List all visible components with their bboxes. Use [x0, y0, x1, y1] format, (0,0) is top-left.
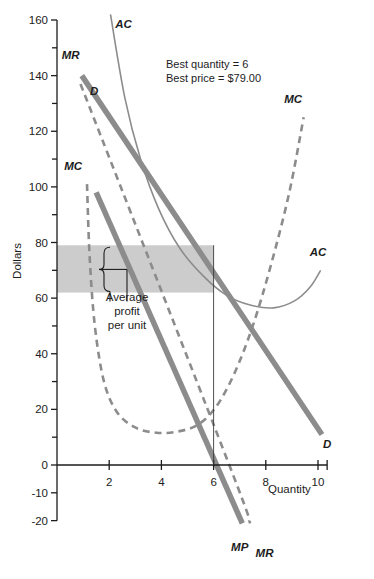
x-tick-label: 10: [312, 476, 325, 488]
y-tick-label: 100: [29, 181, 48, 193]
y-tick-label: 60: [35, 292, 48, 304]
curve-label-mr: MR: [256, 547, 275, 559]
economics-chart: -20-10020406080100120140160246810 ACMRDM…: [0, 0, 374, 579]
y-tick-label: -10: [31, 487, 48, 499]
curve-label-mc: MC: [64, 160, 83, 172]
y-axis-title: Dollars: [11, 231, 23, 291]
best-price-text: Best price = $79.00: [166, 71, 261, 85]
bracket-label-line2: profit: [91, 304, 163, 318]
curve-label-mp: MP: [231, 541, 249, 553]
best-quantity-text: Best quantity = 6: [166, 57, 261, 71]
curve-label-mr: MR: [62, 49, 81, 61]
x-axis-title: Quantity: [268, 483, 311, 495]
average-profit-label: Average profit per unit: [91, 290, 163, 332]
bracket-label-line3: per unit: [91, 318, 163, 332]
curve-label-d: D: [90, 85, 98, 97]
chart-canvas: -20-10020406080100120140160246810 ACMRDM…: [0, 0, 374, 579]
y-tick-label: 80: [35, 237, 48, 249]
bracket-label-line1: Average: [91, 290, 163, 304]
x-axis-title-label: Quantity: [268, 483, 311, 495]
x-tick-label: 4: [158, 476, 165, 488]
y-tick-label: 120: [29, 125, 48, 137]
info-annotation-box: Best quantity = 6 Best price = $79.00: [166, 57, 261, 85]
y-tick-label: 140: [29, 70, 48, 82]
curve-label-d: D: [323, 438, 331, 450]
y-tick-label: 160: [29, 14, 48, 26]
curve-label-ac: AC: [114, 18, 132, 30]
y-tick-label: 20: [35, 403, 48, 415]
y-tick-label: -20: [31, 515, 48, 527]
y-axis-title-label: Dollars: [11, 243, 23, 279]
y-tick-label: 0: [42, 459, 48, 471]
curve-label-mc: MC: [284, 93, 303, 105]
y-tick-label: 40: [35, 348, 48, 360]
x-tick-label: 6: [210, 476, 216, 488]
x-tick-label: 2: [106, 476, 112, 488]
curve-label-ac: AC: [309, 246, 327, 258]
